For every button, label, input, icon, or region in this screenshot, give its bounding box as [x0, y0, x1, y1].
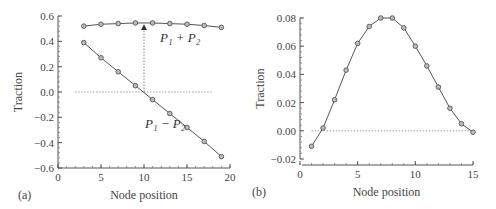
x-tick-label: 10	[410, 168, 422, 180]
data-point	[219, 25, 224, 30]
data-point	[116, 69, 121, 74]
y-tick-label: 0.04	[277, 68, 297, 80]
data-point	[390, 16, 395, 21]
sum-annotation: P₁ + P₂	[159, 30, 201, 45]
chart-panel-a: 0.60.40.20.0−0.2−0.4−0.605101520Node pos…	[11, 10, 236, 202]
diff-annotation: P₁ − P₂	[144, 116, 186, 131]
data-point	[168, 21, 173, 26]
data-point	[202, 139, 207, 144]
y-axis-title: Traction	[11, 72, 25, 112]
y-tick-label: 0.02	[277, 97, 296, 109]
y-tick-label: −0.02	[271, 153, 296, 165]
y-tick-label: 0.06	[277, 40, 297, 52]
y-tick-label: 0.2	[40, 61, 54, 73]
data-point	[185, 22, 190, 27]
data-point	[459, 121, 464, 126]
data-point	[321, 126, 326, 131]
data-point	[436, 85, 441, 90]
panel-label: (a)	[18, 188, 31, 202]
data-point	[219, 154, 224, 159]
data-point	[116, 21, 121, 26]
chart-panel-b: 0.080.060.040.020.00−0.02051015Node posi…	[252, 12, 479, 199]
x-tick-label: 15	[182, 171, 194, 183]
y-tick-label: −0.4	[34, 137, 54, 149]
data-point	[344, 68, 349, 73]
data-point	[82, 40, 87, 45]
x-tick-label: 0	[55, 171, 61, 183]
data-point	[425, 64, 430, 69]
x-axis-title: Node position	[353, 185, 421, 199]
data-point	[133, 83, 138, 88]
y-axis-title: Traction	[253, 68, 267, 108]
y-tick-label: 0.0	[40, 86, 54, 98]
data-point	[150, 97, 155, 102]
y-tick-label: −0.2	[34, 111, 54, 123]
panel-label: (b)	[252, 185, 266, 199]
data-point	[378, 16, 383, 21]
x-tick-label: 5	[355, 168, 361, 180]
data-point	[185, 125, 190, 130]
y-tick-label: 0.08	[277, 12, 297, 24]
data-point	[202, 23, 207, 28]
data-point	[355, 41, 360, 46]
data-point	[309, 144, 314, 149]
data-point	[150, 21, 155, 26]
y-tick-label: 0.6	[40, 10, 54, 22]
x-tick-label: 10	[139, 171, 151, 183]
data-point	[99, 56, 104, 61]
x-tick-label: 20	[225, 171, 237, 183]
data-point	[367, 24, 372, 29]
x-tick-label: 5	[98, 171, 104, 183]
data-point	[448, 106, 453, 111]
data-point	[99, 22, 104, 27]
data-point	[133, 21, 138, 26]
y-tick-label: −0.6	[34, 162, 54, 174]
arrow-head-icon	[141, 24, 147, 30]
x-axis-title: Node position	[110, 188, 178, 202]
data-point	[402, 26, 407, 31]
figure: 0.60.40.20.0−0.2−0.4−0.605101520Node pos…	[0, 0, 496, 209]
data-point	[471, 130, 476, 135]
x-tick-label: 0	[297, 168, 303, 180]
y-tick-label: 0.00	[277, 125, 297, 137]
data-point	[413, 44, 418, 49]
x-tick-label: 15	[468, 168, 480, 180]
series-line	[312, 18, 473, 146]
y-tick-label: 0.4	[40, 35, 54, 47]
data-point	[332, 97, 337, 102]
data-point	[82, 24, 87, 29]
